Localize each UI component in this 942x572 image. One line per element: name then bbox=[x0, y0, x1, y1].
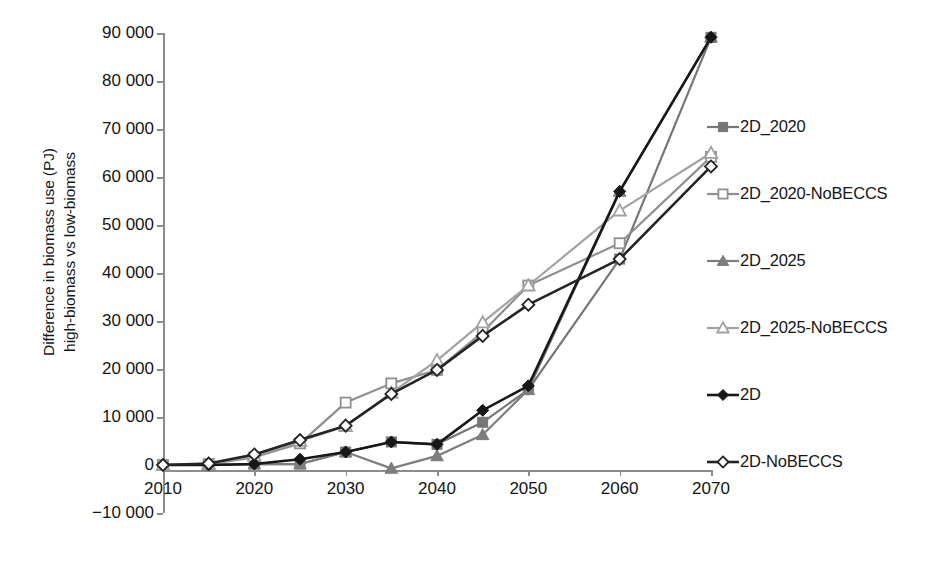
data-point bbox=[615, 238, 625, 248]
y-tick-label: 40 000 bbox=[102, 263, 154, 283]
y-tick-label: 50 000 bbox=[102, 215, 154, 235]
series-2d bbox=[157, 31, 717, 471]
y-tick-label: 0 bbox=[145, 455, 154, 475]
legend-label: 2D-NoBECCS bbox=[740, 452, 843, 471]
legend-item-2d-2020-nobeccs[interactable]: 2D_2020-NoBECCS bbox=[706, 160, 938, 227]
series-line bbox=[163, 157, 711, 465]
legend-item-2d-2025[interactable]: 2D_2025 bbox=[706, 227, 938, 294]
legend-label: 2D bbox=[740, 385, 761, 404]
series-line bbox=[163, 153, 711, 465]
legend-label: 2D_2025-NoBECCS bbox=[740, 318, 887, 337]
legend-marker-icon bbox=[706, 387, 740, 403]
chart-root: Difference in biomass use (PJ) high-biom… bbox=[0, 0, 942, 572]
data-point bbox=[478, 417, 488, 427]
y-tick-label: 30 000 bbox=[102, 311, 154, 331]
y-tick-label: 80 000 bbox=[102, 71, 154, 91]
legend-marker-icon bbox=[706, 454, 740, 470]
legend-label: 2D_2020-NoBECCS bbox=[740, 184, 887, 203]
chart-legend: 2D_20202D_2020-NoBECCS2D_20252D_2025-NoB… bbox=[706, 93, 938, 495]
legend-marker-icon bbox=[706, 119, 740, 135]
legend-label: 2D_2020 bbox=[740, 117, 806, 136]
legend-item-2d[interactable]: 2D bbox=[706, 361, 938, 428]
series-line bbox=[163, 37, 711, 468]
legend-marker-icon bbox=[706, 253, 740, 269]
legend-item-2d-nobeccs[interactable]: 2D-NoBECCS bbox=[706, 428, 938, 495]
y-axis-title: Difference in biomass use (PJ) high-biom… bbox=[38, 42, 80, 462]
y-tick-label: 10 000 bbox=[102, 407, 154, 427]
data-point bbox=[431, 450, 444, 461]
legend-marker-icon bbox=[706, 320, 740, 336]
plot-area: −10 000010 00020 00030 00040 00050 00060… bbox=[163, 33, 711, 513]
legend-marker-icon bbox=[706, 186, 740, 202]
series-2d-2020 bbox=[158, 32, 716, 470]
y-tick-label: 20 000 bbox=[102, 359, 154, 379]
legend-item-2d-2025-nobeccs[interactable]: 2D_2025-NoBECCS bbox=[706, 294, 938, 361]
series-layer bbox=[163, 33, 711, 513]
y-tick-label: 60 000 bbox=[102, 167, 154, 187]
legend-label: 2D_2025 bbox=[740, 251, 806, 270]
series-2d-nobeccs bbox=[157, 160, 717, 471]
series-2d-2025-nobeccs bbox=[157, 147, 718, 470]
y-tick-label: 70 000 bbox=[102, 119, 154, 139]
y-tick-label: 90 000 bbox=[102, 23, 154, 43]
data-point bbox=[613, 204, 626, 215]
y-tick bbox=[157, 513, 163, 515]
data-point bbox=[341, 398, 351, 408]
series-2d-2020-nobeccs bbox=[158, 152, 716, 470]
legend-item-2d-2020[interactable]: 2D_2020 bbox=[706, 93, 938, 160]
series-2d-2025 bbox=[157, 31, 718, 473]
y-tick-label: −10 000 bbox=[92, 503, 154, 523]
series-line bbox=[163, 166, 711, 465]
